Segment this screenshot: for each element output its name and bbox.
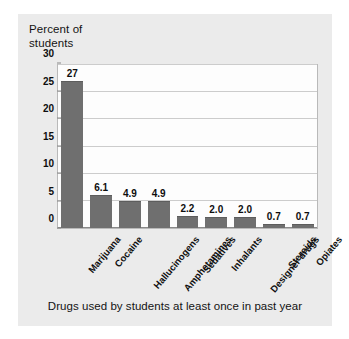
y-tick-label: 0 bbox=[32, 213, 54, 224]
category-slot: Designer drugs bbox=[231, 231, 260, 297]
category-slot: Marijuana bbox=[58, 231, 87, 297]
bar[interactable] bbox=[292, 224, 314, 228]
bar-slot: 0.7 bbox=[288, 65, 317, 228]
bar-value-label: 2.0 bbox=[209, 204, 223, 215]
bar-value-label: 2.0 bbox=[238, 204, 252, 215]
category-slot: Amphetamines bbox=[144, 231, 173, 297]
bar[interactable] bbox=[234, 217, 256, 228]
y-tick-label: 30 bbox=[32, 48, 54, 59]
y-tick-label: 10 bbox=[32, 158, 54, 169]
y-axis-title: Percent of students bbox=[29, 22, 82, 50]
y-tick-label: 20 bbox=[32, 103, 54, 114]
bar-value-label: 6.1 bbox=[94, 182, 108, 193]
bar[interactable] bbox=[177, 216, 199, 228]
category-slot: Opiates bbox=[288, 231, 317, 297]
bar-slot: 4.9 bbox=[116, 65, 145, 228]
category-slot: Inhalants bbox=[202, 231, 231, 297]
bar-slot: 2.0 bbox=[202, 65, 231, 228]
category-slot: Sedatives bbox=[173, 231, 202, 297]
chart-card: Percent of students 051015202530 276.14.… bbox=[18, 14, 332, 326]
bar-value-label: 4.9 bbox=[123, 188, 137, 199]
category-slot: Hallucinogens bbox=[116, 231, 145, 297]
bar[interactable] bbox=[148, 201, 170, 228]
bar-value-label: 2.2 bbox=[181, 203, 195, 214]
bar[interactable] bbox=[205, 217, 227, 228]
category-slot: Steroids bbox=[259, 231, 288, 297]
chart-caption: Drugs used by students at least once in … bbox=[18, 300, 332, 312]
y-tick-label: 5 bbox=[32, 185, 54, 196]
bar-slot: 6.1 bbox=[87, 65, 116, 228]
y-tick-mark bbox=[57, 63, 61, 64]
bar[interactable] bbox=[119, 201, 141, 228]
bar-value-label: 27 bbox=[67, 68, 78, 79]
bar-value-label: 0.7 bbox=[267, 211, 281, 222]
category-slot: Cocaine bbox=[87, 231, 116, 297]
y-axis-ticks: 051015202530 bbox=[28, 64, 54, 229]
bar-slot: 0.7 bbox=[259, 65, 288, 228]
bar-slot: 2.2 bbox=[173, 65, 202, 228]
bar-slot: 2.0 bbox=[231, 65, 260, 228]
x-axis-category-labels: MarijuanaCocaineHallucinogensAmphetamine… bbox=[58, 231, 317, 297]
bar-series: 276.14.94.92.22.02.00.70.7 bbox=[58, 65, 317, 228]
bar-slot: 27 bbox=[58, 65, 87, 228]
bar[interactable] bbox=[61, 81, 83, 228]
bar[interactable] bbox=[90, 195, 112, 228]
y-tick-label: 15 bbox=[32, 130, 54, 141]
bar-value-label: 0.7 bbox=[296, 211, 310, 222]
bar-slot: 4.9 bbox=[144, 65, 173, 228]
bar[interactable] bbox=[263, 224, 285, 228]
y-tick-label: 25 bbox=[32, 75, 54, 86]
bar-value-label: 4.9 bbox=[152, 188, 166, 199]
